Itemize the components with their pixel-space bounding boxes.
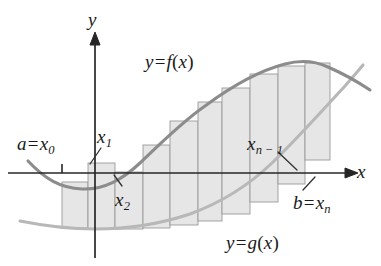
partition-x1-var: x [97,126,106,147]
left-endpoint-var: x [40,133,49,154]
right-endpoint-subscript: n [324,202,330,216]
y-axis-label: y [88,10,97,29]
table-row [222,88,250,214]
right-endpoint-equals: = [303,192,316,213]
left-endpoint-lhs: a [17,133,27,154]
curve-f-label-paren-close: ) [187,51,194,72]
curve-f-label-equals: = [154,51,167,72]
partition-xn-minus-1-label: xn − 1 [247,134,283,156]
partition-x2-label: x2 [115,190,130,212]
y-axis-arrowhead [90,32,100,45]
partition-x1-label: x1 [97,127,112,149]
x-axis-label: x [357,162,366,181]
curve-g-label-lhs: y [226,232,235,253]
table-row [278,66,305,184]
partition-x1-subscript: 1 [106,136,112,150]
curve-g-label: y=g(x) [226,233,279,252]
partition-x2-subscript: 2 [124,199,130,213]
left-endpoint-subscript: 0 [48,143,54,157]
right-endpoint-label: b=xn [293,193,331,215]
curve-g-label-paren-close: ) [272,232,279,253]
right-endpoint-var: x [316,192,325,213]
partition-x2-var: x [115,189,124,210]
curve-g-label-fn: g [248,232,258,253]
partition-xn-minus-1-subscript: n − 1 [256,143,283,157]
left-endpoint-equals: = [27,133,40,154]
left-endpoint-label: a=x0 [17,134,55,156]
table-row [305,63,330,160]
right-endpoint-lhs: b [293,192,303,213]
curve-f-label-lhs: y [145,51,154,72]
partition-xn-minus-1-var: x [247,133,256,154]
curve-f-label-arg: x [179,51,188,72]
diagram-svg [0,0,381,266]
curve-f-label: y=f(x) [145,52,194,71]
curve-g-label-equals: = [235,232,248,253]
figure-canvas: y x y=f(x) y=g(x) a=x0 x1 x2 xn − 1 b=xn [0,0,381,266]
